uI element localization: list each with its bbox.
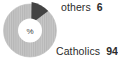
slice-label-catholics-text: Catholics bbox=[56, 45, 100, 57]
donut-chart-graphic bbox=[0, 0, 60, 62]
slice-label-catholics: Catholics 94 bbox=[56, 45, 118, 57]
donut-chart-figure: % others 6 Catholics 94 bbox=[0, 0, 118, 66]
slice-label-others-text: others bbox=[61, 1, 91, 13]
slice-label-others: others 6 bbox=[61, 1, 103, 13]
slice-label-others-value: 6 bbox=[97, 1, 103, 13]
donut-hole bbox=[18, 19, 42, 43]
slice-label-catholics-value: 94 bbox=[106, 45, 118, 57]
